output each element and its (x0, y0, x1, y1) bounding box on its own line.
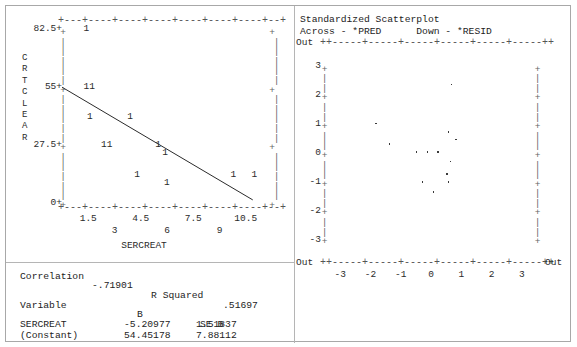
correlation-row: Correlation -.71901 R Squared .51697 (20, 262, 43, 282)
right-plot-y-tick-label: 0 (299, 147, 321, 158)
right-plot-y-tick-label: 2 (299, 89, 321, 100)
stats-b-value: -5.20977 (124, 320, 171, 330)
right-plot-dot (451, 84, 453, 86)
right-plot-bottom-axis-rule: ++-----+-----+-----+-----+-----+-----++ (320, 258, 554, 268)
right-plot-x-tick-label: 3 (512, 269, 532, 280)
header-variable: Variable (20, 301, 67, 311)
right-plot-y-tick-label: 3 (299, 60, 321, 71)
right-plot-dot (437, 151, 439, 153)
right-plot-y-tick-label: 1 (299, 118, 321, 129)
stats-se-b-value: 7.88112 (196, 331, 237, 341)
stats-b-value: 54.45178 (124, 331, 171, 341)
right-plot-out-label-bottom-left: Out (296, 258, 313, 268)
right-plot-dot (448, 131, 450, 133)
r-squared-value: .51697 (223, 301, 258, 311)
right-plot-y-tick-label: -1 (299, 176, 321, 187)
r-squared-label: R Squared (151, 291, 203, 301)
right-plot-dot (446, 173, 448, 175)
statistics-block: Correlation -.71901 R Squared .51697 Var… (20, 262, 43, 342)
right-plot-dot (422, 181, 424, 183)
left-plot-x-axis-title: SERCREAT (0, 240, 288, 251)
right-plot-dot (375, 123, 377, 125)
left-plot-x-tick-label-lower: 9 (205, 225, 235, 236)
correlation-value: -.71901 (92, 281, 133, 291)
left-plot-bottom-axis-rule: +---+----+----+----+----+----+----+--+ (58, 203, 286, 213)
left-plot-x-tick-label-upper: 10.5 (231, 213, 261, 224)
right-plot-dot (455, 139, 457, 141)
left-plot-regression-line (0, 0, 577, 347)
stats-variable-name: SERCREAT (20, 320, 67, 330)
right-plot-dot (416, 151, 418, 153)
right-plot-x-tick-label: -1 (391, 269, 411, 280)
right-plot-x-tick-label: -2 (360, 269, 380, 280)
table-header-row: Variable B SE B (20, 291, 43, 311)
right-plot-out-label-top: Out (296, 38, 313, 48)
statistics-table-body: SERCREAT-5.209771.51837(Constant)54.4517… (20, 320, 43, 342)
right-plot-left-rail: + | | + | | + | | + | | + | | + | | + (321, 65, 328, 247)
right-plot-x-tick-label: 1 (451, 269, 471, 280)
right-plot-dot (450, 161, 452, 163)
right-plot-right-rail: + | | + | | + | | + | | + | | + | | + (534, 65, 541, 247)
left-plot-x-tick-label-upper: 1.5 (73, 213, 103, 224)
left-plot-x-tick-label-upper: 4.5 (126, 213, 156, 224)
stats-se-b-value: 1.51837 (196, 320, 237, 330)
right-plot-dot (433, 191, 435, 193)
right-plot-dot (389, 143, 391, 145)
correlation-label: Correlation (20, 272, 84, 282)
right-plot-top-axis-rule: ++-----+-----+-----+-----+-----+-----++ (320, 38, 554, 48)
right-plot-x-tick-label: 2 (482, 269, 502, 280)
right-plot-x-tick-label: -3 (330, 269, 350, 280)
right-plot-y-tick-label: -2 (299, 205, 321, 216)
stats-variable-name: (Constant) (20, 331, 78, 341)
right-plot-y-tick-label: -3 (299, 234, 321, 245)
right-plot-dot (448, 181, 450, 183)
right-plot-out-label-bottom-right: Out (545, 258, 562, 268)
left-plot-x-tick-label-lower: 6 (152, 225, 182, 236)
left-plot-x-tick-label-lower: 3 (100, 225, 130, 236)
right-plot-dot (427, 151, 429, 153)
statistics-table-row: (Constant)54.451787.88112 (20, 331, 43, 342)
left-plot-x-tick-label-upper: 7.5 (178, 213, 208, 224)
right-plot-x-tick-label: 0 (421, 269, 441, 280)
right-plot-title-block: Standardized Scatterplot Across - *PRED … (300, 14, 492, 37)
